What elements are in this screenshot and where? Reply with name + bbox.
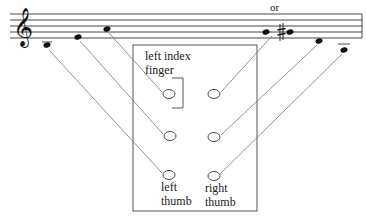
notes — [42, 25, 350, 53]
hole-L3 — [163, 171, 175, 180]
holes — [163, 90, 220, 181]
staff — [10, 14, 362, 38]
note-4 — [262, 28, 271, 35]
note-2 — [74, 33, 83, 40]
or-label: or — [270, 1, 279, 14]
connection-lines — [49, 33, 342, 174]
left-thumb-label-2: thumb — [161, 195, 192, 208]
hole-L1 — [163, 90, 175, 99]
hole-R2 — [208, 133, 220, 142]
right-thumb-label-2: thumb — [205, 196, 236, 209]
note-7 — [340, 46, 349, 53]
left-index-label-1: left index — [145, 50, 191, 63]
hole-L2 — [164, 132, 176, 141]
treble-clef-icon: 𝄞 — [13, 6, 33, 48]
left-thumb-label-1: left — [161, 181, 177, 194]
note-5 — [286, 28, 295, 35]
right-thumb-label-1: right — [205, 182, 228, 195]
fingering-diagram: 𝄞 — [0, 0, 366, 216]
hole-R1 — [208, 90, 220, 99]
left-index-label-2: finger — [145, 64, 174, 77]
hole-R3 — [208, 172, 220, 181]
